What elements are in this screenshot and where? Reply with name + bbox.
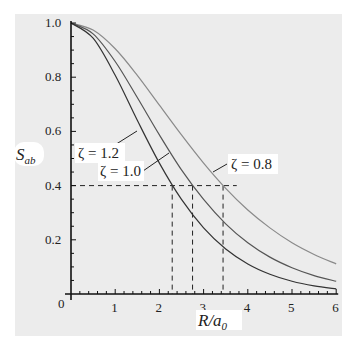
annotation-zeta-0-8: ζ = 0.8: [231, 156, 272, 172]
overlap-integral-chart: 1234560.20.40.60.81.0 ζ = 1.2 ζ = 1.0 ζ …: [0, 0, 357, 351]
x-tick-label: 6: [332, 300, 339, 315]
annotation-zeta-1-0: ζ = 1.0: [100, 163, 141, 179]
x-tick-label: 1: [111, 300, 118, 315]
y-tick-label: 1.0: [45, 15, 61, 30]
y-tick-label: 0.2: [45, 232, 61, 247]
y-tick-label: 0.4: [45, 178, 62, 193]
annotation-zeta-1-2: ζ = 1.2: [78, 145, 119, 161]
y-tick-label: 0.8: [45, 69, 61, 84]
plot-background: [15, 14, 342, 336]
origin-label: 0: [58, 296, 65, 311]
x-tick-label: 2: [155, 300, 162, 315]
x-tick-label: 4: [244, 300, 251, 315]
y-tick-label: 0.6: [45, 123, 62, 138]
x-tick-label: 5: [288, 300, 295, 315]
